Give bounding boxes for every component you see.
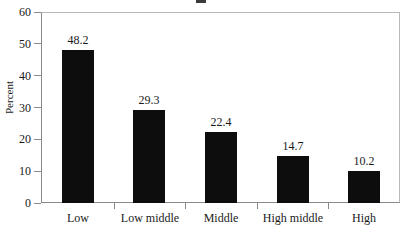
x-axis-tick (114, 203, 115, 209)
y-axis-tick-label: 0 (0, 197, 31, 209)
y-axis-tick (34, 171, 41, 172)
bar (133, 110, 165, 203)
x-axis-category-label: Middle (185, 211, 257, 225)
y-axis-tick (34, 12, 41, 13)
x-axis-category-label: Low middle (114, 211, 186, 225)
y-axis-tick (34, 43, 41, 44)
x-axis-category-label: High (328, 211, 400, 225)
bar (277, 156, 309, 203)
y-axis-tick-label: 10 (0, 165, 31, 177)
x-axis-tick (328, 203, 329, 209)
bar (348, 171, 380, 203)
bar-chart: 0102030405060 Percent LowLow middleMiddl… (0, 0, 406, 234)
bar-value-label: 22.4 (191, 116, 251, 128)
x-axis-category-label: Low (42, 211, 114, 225)
bar-value-label: 48.2 (48, 34, 108, 46)
y-axis-tick (34, 203, 41, 204)
cropped-title-fragment (196, 0, 206, 3)
bar (62, 50, 94, 203)
x-axis-tick (257, 203, 258, 209)
y-axis-tick-label: 60 (0, 6, 31, 18)
bar-value-label: 14.7 (263, 140, 323, 152)
y-axis-tick (34, 107, 41, 108)
bar-value-label: 29.3 (119, 94, 179, 106)
y-axis-tick-label: 50 (0, 38, 31, 50)
bar (205, 132, 237, 203)
y-axis-tick (34, 139, 41, 140)
y-axis-title: Percent (4, 68, 15, 128)
x-axis-tick (185, 203, 186, 209)
bar-value-label: 10.2 (334, 155, 394, 167)
y-axis-tick (34, 75, 41, 76)
y-axis-tick-label: 20 (0, 133, 31, 145)
x-axis-category-label: High middle (257, 211, 329, 225)
